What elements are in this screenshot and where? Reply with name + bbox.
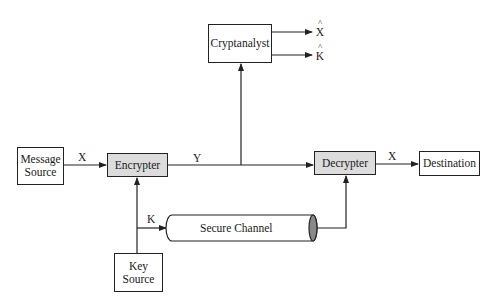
- message-source-label-2: Source: [25, 166, 57, 178]
- edge-label-k: K: [147, 213, 155, 225]
- destination-box: Destination: [419, 151, 480, 176]
- secure-channel-label: Secure Channel: [200, 222, 273, 234]
- decrypter-box: Decrypter: [314, 151, 376, 175]
- edge-label-x-hat: ^ X: [314, 20, 326, 38]
- arrow-channel-to-decrypter: [317, 176, 346, 228]
- destination-label: Destination: [423, 157, 476, 170]
- message-source-label-1: Message: [20, 153, 60, 165]
- encrypter-box: Encrypter: [107, 153, 168, 177]
- edge-label-k-hat: ^ K: [314, 44, 326, 62]
- key-source-label-1: Key: [129, 260, 148, 272]
- encrypter-label: Encrypter: [115, 159, 160, 172]
- edge-label-y: Y: [193, 152, 201, 164]
- cryptanalyst-box: Cryptanalyst: [208, 24, 272, 63]
- secure-channel-end: [309, 215, 317, 241]
- key-source-label-2: Source: [123, 273, 155, 285]
- edge-label-x-in: X: [78, 151, 86, 163]
- key-source-box: KeySource: [114, 253, 163, 292]
- cryptanalyst-label: Cryptanalyst: [211, 37, 270, 50]
- decrypter-label: Decrypter: [322, 157, 368, 170]
- edge-label-x-out: X: [388, 150, 396, 162]
- message-source-box: MessageSource: [17, 147, 64, 185]
